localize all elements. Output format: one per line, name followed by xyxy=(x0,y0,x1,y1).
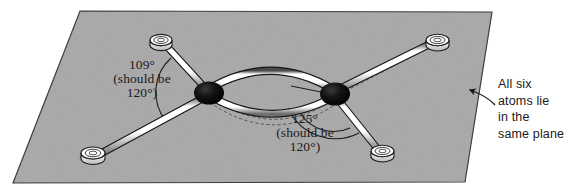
carbon-atom-right xyxy=(320,83,350,106)
outer-atom-lower-right xyxy=(371,145,394,162)
figure-container: 109° (should be 120°) 125° (should be 12… xyxy=(0,0,579,193)
molecule-diagram xyxy=(0,0,579,193)
outer-atom-upper-left xyxy=(150,34,172,50)
carbon-atom-left xyxy=(194,82,224,105)
outer-atom-lower-left xyxy=(81,147,105,165)
outer-atom-upper-right xyxy=(426,34,449,51)
